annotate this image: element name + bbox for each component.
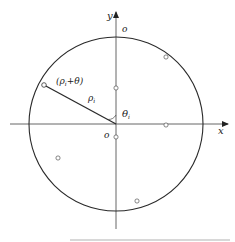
polar-diagram: y x o o (ρi+θ) ρi θi [0, 0, 235, 242]
x-axis-label: x [218, 125, 224, 136]
point-coordinate-label: (ρi+θ) [56, 76, 84, 87]
caption-strip [0, 228, 235, 242]
circle-top-label: o [122, 24, 128, 34]
point-marker [42, 83, 47, 88]
point-marker [135, 199, 139, 203]
point-marker [164, 55, 168, 59]
radius-label: ρi [87, 93, 95, 104]
point-marker [114, 135, 118, 139]
y-axis-label: y [106, 10, 113, 21]
point-marker [114, 86, 118, 90]
caption-smudge [70, 239, 230, 241]
angle-label-sub: i [128, 113, 130, 120]
point-marker [164, 123, 168, 127]
point-marker [56, 156, 60, 160]
origin-label: o [104, 130, 110, 140]
radius-label-sub: i [93, 97, 95, 104]
angle-label: θi [122, 108, 130, 120]
angle-arc [108, 115, 116, 120]
radius-line [44, 85, 116, 124]
point-label-tail: +θ) [67, 76, 84, 86]
